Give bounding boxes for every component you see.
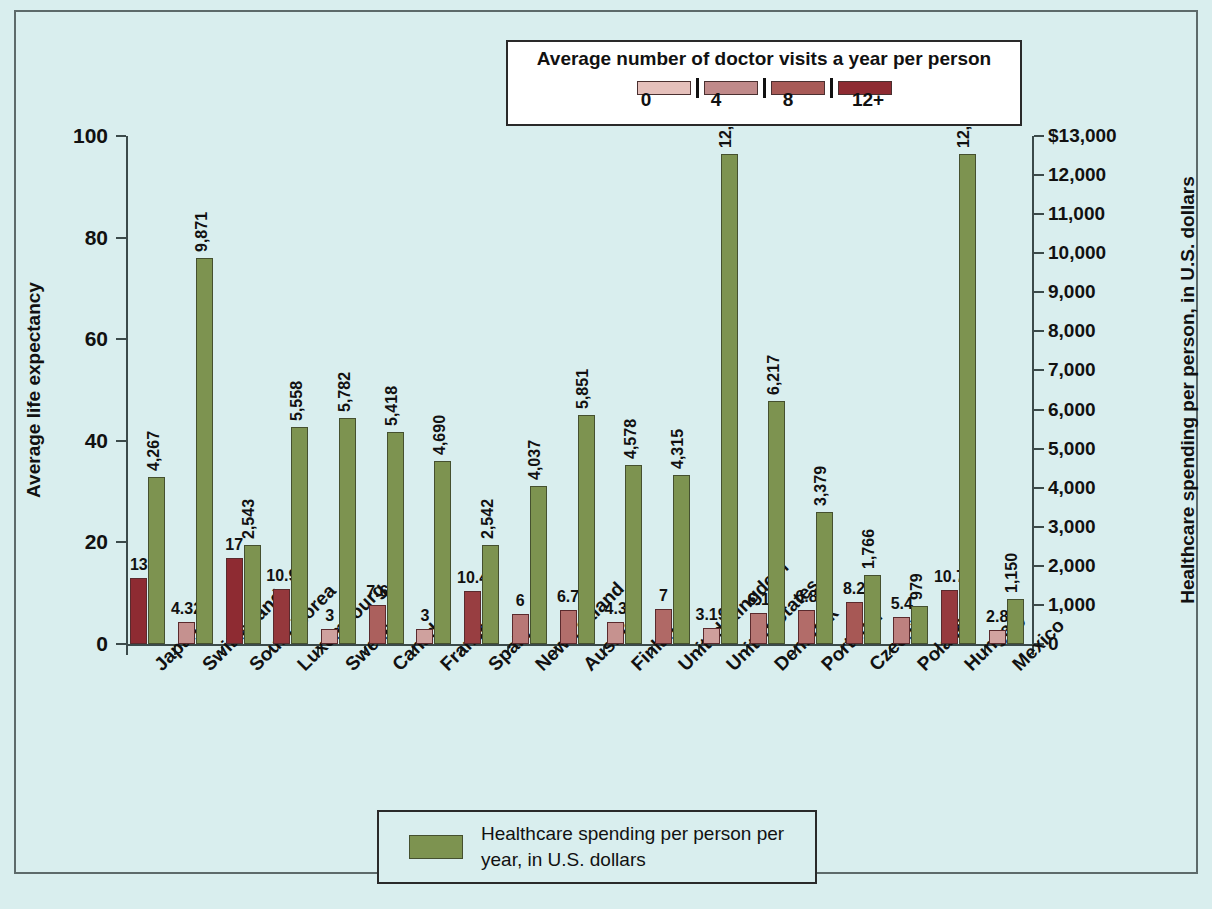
- right-axis-tick: [1034, 604, 1044, 606]
- doctor-visits-bar: [178, 622, 195, 644]
- healthcare-spending-value-label: 1,150: [1003, 553, 1021, 593]
- right-axis-tick: [1034, 291, 1044, 293]
- healthcare-spending-value-label: 1,766: [860, 529, 878, 569]
- healthcare-spending-value-label: 3,379: [812, 466, 830, 506]
- right-axis-tick-label: 6,000: [1048, 399, 1096, 421]
- legend-tick-label: 0: [641, 89, 652, 111]
- spending-legend-swatch: [409, 835, 463, 859]
- right-axis-tick-label: 3,000: [1048, 516, 1096, 538]
- doctor-visits-value-label: 2.8: [986, 608, 1008, 626]
- doctor-visits-value-label: 6: [516, 592, 525, 610]
- left-axis-tick: [116, 338, 126, 340]
- healthcare-spending-value-label: 2,542: [479, 499, 497, 539]
- right-axis-tick: [1034, 487, 1044, 489]
- spending-legend-label: Healthcare spending per person per year,…: [481, 821, 815, 872]
- left-axis-tick: [116, 237, 126, 239]
- healthcare-spending-value-label: 4,690: [431, 415, 449, 455]
- figure-canvas: Average life expectancy 020406080100 Hea…: [0, 0, 1212, 909]
- doctor-visits-value-label: 4.3: [605, 600, 627, 618]
- doctor-visits-value-label: 6.7: [557, 588, 579, 606]
- left-axis-title: Average life expectancy: [23, 282, 45, 498]
- right-axis-tick-label: 11,000: [1048, 203, 1105, 225]
- right-axis-tick-label: 8,000: [1048, 320, 1096, 342]
- doctor-visits-bar: [560, 610, 577, 644]
- healthcare-spending-value-label: 5,851: [574, 369, 592, 409]
- right-axis-tick-label: 5,000: [1048, 438, 1096, 460]
- legend-color-swatch: [771, 81, 825, 95]
- healthcare-spending-bar: [1007, 599, 1024, 644]
- healthcare-spending-value-label: 4,267: [145, 431, 163, 471]
- legend-separator: [830, 78, 833, 98]
- doctor-visits-bar: [321, 629, 338, 644]
- healthcare-spending-value-label: 4,037: [526, 440, 544, 480]
- right-axis-tick-label: 2,000: [1048, 555, 1096, 577]
- doctor-visits-legend-swatches: [508, 78, 1020, 98]
- left-axis-tick: [116, 135, 126, 137]
- doctor-visits-bar: [846, 602, 863, 644]
- right-axis-tick: [1034, 448, 1044, 450]
- healthcare-spending-bar: [578, 415, 595, 644]
- right-axis-tick-label: $13,000: [1048, 125, 1117, 147]
- healthcare-spending-bar: [196, 258, 213, 644]
- chart-frame: Average life expectancy 020406080100 Hea…: [14, 10, 1198, 874]
- healthcare-spending-value-label: 5,558: [288, 381, 306, 421]
- right-axis-tick: [1034, 409, 1044, 411]
- healthcare-spending-bar: [148, 477, 165, 644]
- doctor-visits-value-label: 6.8: [795, 588, 817, 606]
- healthcare-spending-value-label: 9,871: [193, 212, 211, 252]
- healthcare-spending-value-label: 5,782: [336, 372, 354, 412]
- right-axis-tick: [1034, 330, 1044, 332]
- healthcare-spending-value-label: 979: [908, 573, 926, 600]
- healthcare-spending-value-label: 4,578: [622, 419, 640, 459]
- right-axis-tick-label: 1,000: [1048, 594, 1096, 616]
- right-axis-tick-label: 4,000: [1048, 477, 1096, 499]
- doctor-visits-bar: [369, 605, 386, 644]
- legend-tick-label: 12+: [852, 89, 884, 111]
- spending-legend: Healthcare spending per person per year,…: [377, 810, 817, 884]
- doctor-visits-legend: Average number of doctor visits a year p…: [506, 40, 1022, 126]
- healthcare-spending-bar: [530, 486, 547, 644]
- healthcare-spending-bar: [291, 427, 308, 644]
- healthcare-spending-bar: [816, 512, 833, 644]
- doctor-visits-bar: [941, 590, 958, 644]
- doctor-visits-value-label: 7: [659, 587, 668, 605]
- doctor-visits-bar: [750, 613, 767, 644]
- healthcare-spending-value-label: 6,217: [765, 355, 783, 395]
- left-axis-tick: [116, 643, 126, 645]
- doctor-visits-value-label: 7.6: [366, 583, 388, 601]
- right-axis-tick: [1034, 252, 1044, 254]
- legend-separator: [696, 78, 699, 98]
- right-axis-tick: [1034, 213, 1044, 215]
- left-axis-tick-label: 0: [96, 632, 108, 656]
- right-axis-tick: [1034, 369, 1044, 371]
- legend-tick-label: 4: [711, 89, 722, 111]
- healthcare-spending-value-label: 5,418: [383, 386, 401, 426]
- right-axis-title: Healthcare spending per person, in U.S. …: [1177, 176, 1199, 604]
- healthcare-spending-bar: [864, 575, 881, 644]
- healthcare-spending-bar: [768, 401, 785, 644]
- healthcare-spending-bar: [911, 606, 928, 644]
- left-axis-tick-label: 20: [85, 530, 108, 554]
- left-axis-tick-label: 80: [85, 226, 108, 250]
- doctor-visits-value-label: 13: [130, 556, 148, 574]
- healthcare-spending-bar: [959, 154, 976, 644]
- doctor-visits-bar: [989, 630, 1006, 644]
- left-axis-tick: [116, 440, 126, 442]
- legend-separator: [763, 78, 766, 98]
- healthcare-spending-bar: [673, 475, 690, 644]
- doctor-visits-bar: [464, 591, 481, 644]
- right-axis-tick: [1034, 565, 1044, 567]
- right-axis-tick: [1034, 174, 1044, 176]
- healthcare-spending-value-label: 2,543: [240, 499, 258, 539]
- doctor-visits-bar: [226, 558, 243, 644]
- doctor-visits-bar: [130, 578, 147, 644]
- legend-tick-label: 8: [783, 89, 794, 111]
- doctor-visits-bar: [607, 622, 624, 644]
- doctor-visits-value-label: 8.2: [843, 580, 865, 598]
- healthcare-spending-bar: [625, 465, 642, 644]
- right-axis-tick-label: 12,000: [1048, 164, 1106, 186]
- healthcare-spending-bar: [721, 154, 738, 644]
- doctor-visits-bar: [655, 609, 672, 644]
- doctor-visits-value-label: 3: [420, 607, 429, 625]
- left-axis-tick-label: 100: [73, 124, 108, 148]
